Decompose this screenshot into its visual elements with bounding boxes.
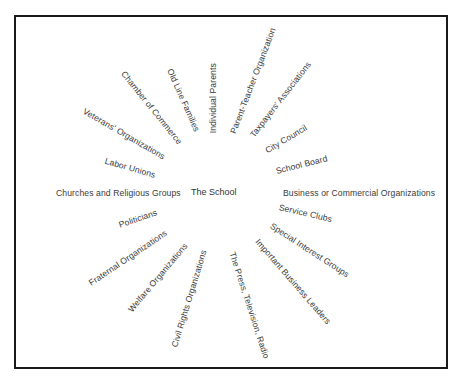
influence-label-business-or-commercial-organizations: Business or Commercial Organizations bbox=[283, 189, 435, 198]
center-label-the-school: The School bbox=[191, 187, 237, 197]
influence-label-churches-and-religious-groups: Churches and Religious Groups bbox=[56, 189, 181, 198]
influence-label-individual-parents: Individual Parents bbox=[209, 63, 218, 133]
